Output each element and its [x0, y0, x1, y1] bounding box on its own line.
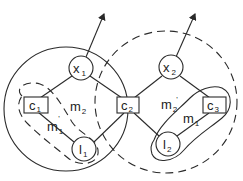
arrow-x2 [176, 14, 195, 57]
edge-c2-l2 [134, 113, 159, 136]
edge-x2-c3 [180, 76, 210, 98]
edge-x1-c2 [90, 76, 122, 98]
node-x1: x1 [69, 56, 93, 80]
edge-l1-c2 [94, 113, 124, 142]
label-m2-prime-right: m2' [161, 95, 178, 114]
node-c1: c1 [24, 97, 48, 114]
node-l2: l2 [156, 132, 180, 156]
label-m1-prime-left: m1' [47, 114, 64, 136]
edge-x2-c2 [134, 76, 162, 98]
node-c3: c3 [203, 97, 226, 114]
left-region-circle [4, 47, 128, 171]
edge-x1-c1 [40, 76, 72, 98]
label-m2-left: m2 [70, 99, 87, 116]
diagram-canvas: x1 x2 c1 c2 c3 l1 l2 m2 m1' m2' m1 [0, 0, 243, 181]
arrow-x1 [86, 14, 104, 57]
node-c2: c2 [117, 97, 139, 114]
node-x2: x2 [159, 55, 183, 79]
node-l1: l1 [72, 137, 96, 161]
label-m1-right: m1 [183, 111, 200, 128]
